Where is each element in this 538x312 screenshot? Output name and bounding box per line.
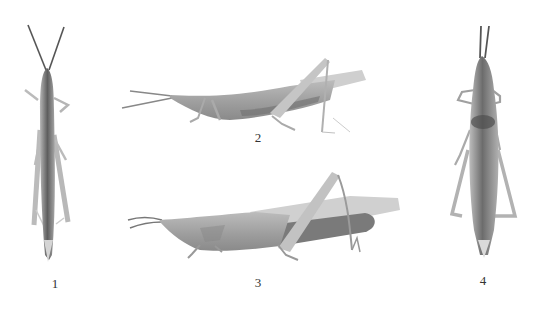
specimen-2-lateral bbox=[122, 58, 366, 133]
specimen-drawings bbox=[0, 0, 538, 312]
figure-label-3: 3 bbox=[248, 276, 268, 289]
figure-label-4: 4 bbox=[473, 274, 493, 287]
figure-label-2: 2 bbox=[248, 131, 268, 144]
figure-label-1: 1 bbox=[45, 277, 65, 290]
specimen-3-lateral bbox=[128, 172, 400, 260]
specimen-1-dorsal bbox=[25, 25, 68, 262]
specimen-4-dorsal bbox=[452, 26, 515, 258]
specimen-figure-plate: 1 2 3 4 bbox=[0, 0, 538, 312]
